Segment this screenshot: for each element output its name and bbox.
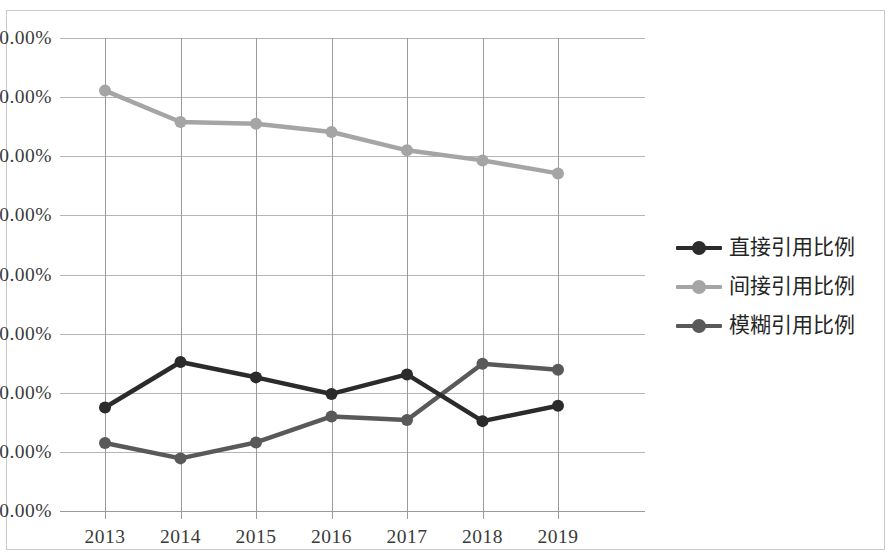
legend-dot-swatch <box>692 241 706 255</box>
x-axis-tick-label: 2014 <box>141 527 221 547</box>
series-data-point <box>552 400 564 412</box>
series-data-point <box>99 85 111 97</box>
series-data-point <box>250 371 262 383</box>
series-data-point <box>99 402 111 414</box>
series-data-point <box>401 144 413 156</box>
series-data-point <box>552 364 564 376</box>
y-axis-tick-label: 20.00% <box>0 383 52 403</box>
y-axis-tick-label: 10.00% <box>0 442 52 462</box>
y-axis-tick-label: 40.00% <box>0 265 52 285</box>
legend-item[interactable]: 模糊引用比例 <box>676 306 876 345</box>
y-axis-tick-label: 0.00% <box>0 501 52 521</box>
line-chart: 80.00%70.00%60.00%50.00%40.00%30.00%20.0… <box>0 0 892 559</box>
x-axis-tick-label: 2018 <box>443 527 523 547</box>
legend-item[interactable]: 间接引用比例 <box>676 267 876 306</box>
series-data-point <box>175 116 187 128</box>
series-data-point <box>250 118 262 130</box>
x-axis-tickmark <box>181 512 182 519</box>
series-data-point <box>175 356 187 368</box>
series-data-point <box>401 368 413 380</box>
series-data-point <box>477 154 489 166</box>
series-data-point <box>250 436 262 448</box>
series-data-point <box>477 358 489 370</box>
x-axis-tick-label: 2015 <box>216 527 296 547</box>
series-data-point <box>99 437 111 449</box>
series-data-point <box>175 452 187 464</box>
x-axis-tickmark <box>332 512 333 519</box>
chart-legend: 直接引用比例间接引用比例模糊引用比例 <box>676 228 876 345</box>
legend-marker-icon <box>676 239 722 257</box>
x-axis-tick-label: 2016 <box>292 527 372 547</box>
series-lines-and-markers <box>60 38 645 511</box>
x-axis-tickmark <box>407 512 408 519</box>
y-axis-tick-label: 60.00% <box>0 146 52 166</box>
y-axis-tick-label: 50.00% <box>0 205 52 225</box>
legend-item-label: 间接引用比例 <box>722 276 855 297</box>
x-axis-tick-label: 2013 <box>65 527 145 547</box>
x-axis-tickmark <box>483 512 484 519</box>
legend-item-label: 模糊引用比例 <box>722 315 855 336</box>
plot-area <box>60 38 645 511</box>
y-axis-tick-label: 30.00% <box>0 324 52 344</box>
x-axis-tickmark <box>256 512 257 519</box>
legend-item[interactable]: 直接引用比例 <box>676 228 876 267</box>
series-data-point <box>401 414 413 426</box>
x-axis-tickmark <box>105 512 106 519</box>
legend-marker-icon <box>676 278 722 296</box>
y-axis-tick-labels: 80.00%70.00%60.00%50.00%40.00%30.00%20.0… <box>0 0 52 559</box>
y-axis-tick-label: 70.00% <box>0 87 52 107</box>
legend-item-label: 直接引用比例 <box>722 237 855 258</box>
legend-dot-swatch <box>692 319 706 333</box>
series-data-point <box>326 388 338 400</box>
legend-dot-swatch <box>692 280 706 294</box>
series-data-point <box>326 410 338 422</box>
series-data-point <box>477 415 489 427</box>
x-axis-tickmark <box>558 512 559 519</box>
y-axis-tick-label: 80.00% <box>0 28 52 48</box>
x-axis-tick-label: 2017 <box>367 527 447 547</box>
x-axis-tick-label: 2019 <box>518 527 598 547</box>
legend-marker-icon <box>676 317 722 335</box>
series-data-point <box>326 126 338 138</box>
series-data-point <box>552 167 564 179</box>
